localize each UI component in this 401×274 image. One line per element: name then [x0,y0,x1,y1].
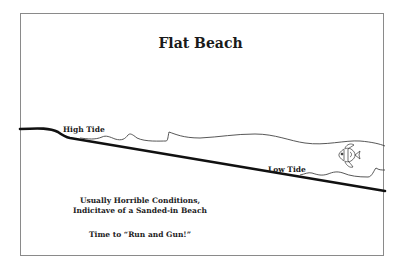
caption-conditions: Usually Horrible Conditions, Indicitave … [60,196,220,216]
low-tide-waterline [300,168,385,177]
low-tide-label: Low Tide [268,165,306,174]
high-tide-label: High Tide [63,125,105,134]
caption-action: Time to “Run and Gun!” [60,230,220,240]
high-tide-waterline [80,132,385,146]
fish-icon [339,144,360,167]
caption-line-2: Indicitave of a Sanded-in Beach [60,206,220,216]
caption-line-1: Usually Horrible Conditions, [60,196,220,206]
